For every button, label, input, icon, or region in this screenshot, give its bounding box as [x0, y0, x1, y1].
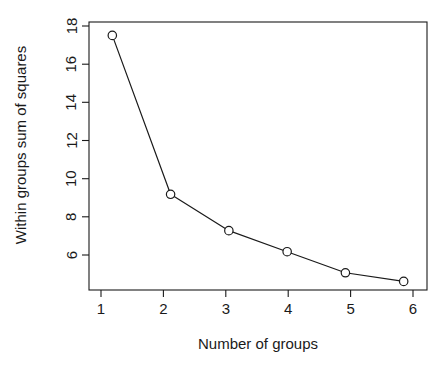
y-tick-label-10: 10 [63, 170, 80, 187]
x-tick-label-1: 1 [97, 300, 105, 317]
data-series-points [108, 31, 408, 285]
data-point-6 [399, 277, 407, 285]
x-tick-label-4: 4 [284, 300, 292, 317]
data-point-5 [341, 269, 349, 277]
data-point-3 [225, 226, 233, 234]
y-axis-ticks [82, 26, 89, 255]
x-axis-title: Number of groups [198, 335, 318, 352]
y-tick-label-14: 14 [63, 94, 80, 111]
data-series-line [112, 35, 403, 281]
y-tick-label-12: 12 [63, 132, 80, 149]
chart-svg: 18 16 14 12 10 8 6 1 2 3 4 5 6 [0, 0, 440, 380]
x-tick-label-5: 5 [346, 300, 354, 317]
plot-frame-rect [89, 22, 427, 290]
y-axis-tick-labels: 18 16 14 12 10 8 6 [63, 18, 80, 260]
x-tick-label-6: 6 [409, 300, 417, 317]
y-tick-label-16: 16 [63, 56, 80, 73]
y-axis-title: Within groups sum of squares [12, 46, 29, 244]
data-point-2 [166, 190, 174, 198]
data-point-4 [283, 248, 291, 256]
x-tick-label-3: 3 [222, 300, 230, 317]
x-tick-label-2: 2 [159, 300, 167, 317]
y-tick-label-6: 6 [63, 251, 80, 259]
y-tick-label-18: 18 [63, 18, 80, 35]
data-point-1 [108, 31, 116, 39]
scree-plot-figure: 18 16 14 12 10 8 6 1 2 3 4 5 6 [0, 0, 440, 380]
y-tick-label-8: 8 [63, 213, 80, 221]
plot-frame [89, 22, 427, 290]
x-axis-ticks [101, 290, 413, 297]
x-axis-tick-labels: 1 2 3 4 5 6 [97, 300, 417, 317]
